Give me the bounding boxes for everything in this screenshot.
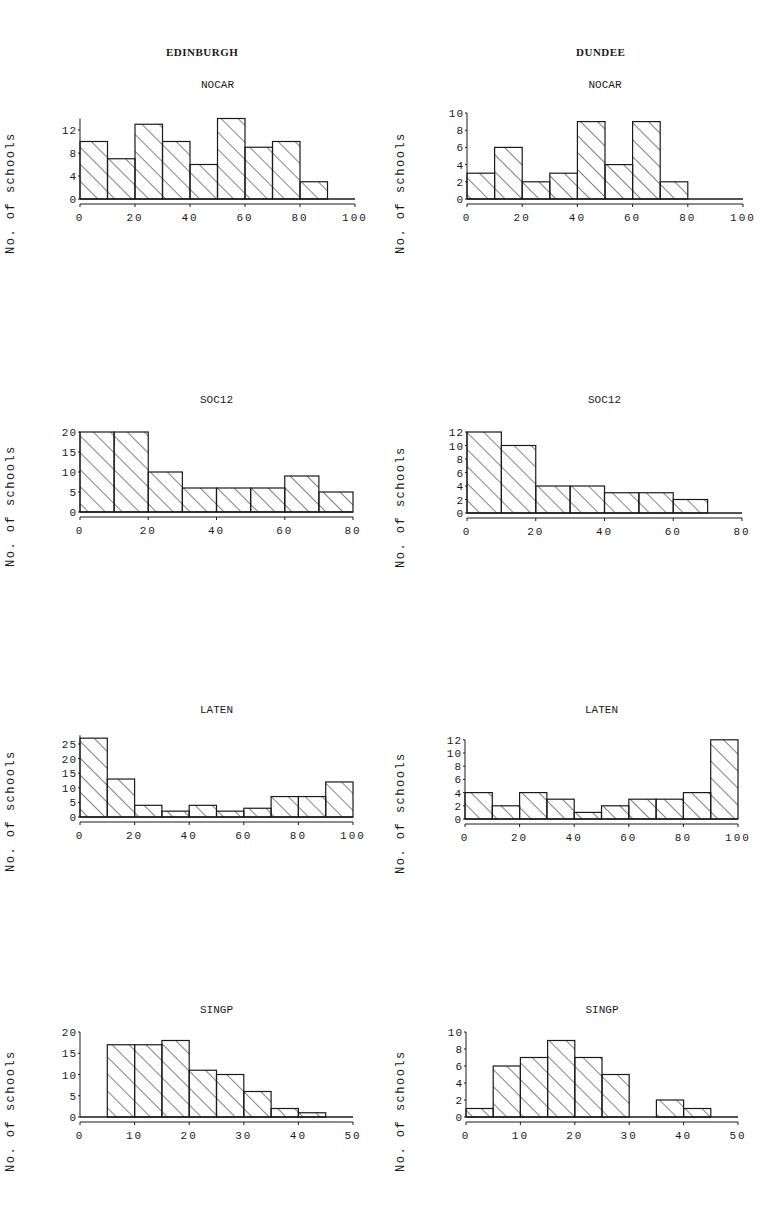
histogram-bar [148,472,182,512]
histogram-bar [189,1070,216,1117]
x-tick-label: 20 [566,1130,583,1142]
y-tick-label: 0 [455,1112,463,1124]
x-tick-label: 0 [463,526,472,538]
histogram-bar [501,446,535,514]
y-axis-label: No. of schools [394,446,408,568]
x-tick-label: 10 [512,1130,529,1142]
y-tick-label: 0 [456,508,464,520]
x-tick-label: 0 [76,830,85,842]
histogram-grid: NOCARNo. of schools04812020406080100NOCA… [0,0,778,1228]
x-tick-label: 40 [566,832,583,844]
histogram-bar [570,486,604,513]
y-axis-label: No. of schools [4,1050,18,1172]
histogram-bar [114,432,148,512]
y-tick-label: 15 [62,1048,77,1060]
y-tick-label: 6 [456,468,464,480]
x-tick-label: 100 [725,832,751,844]
histogram-bar [605,493,639,513]
x-tick-label: 20 [140,525,157,537]
x-tick-label: 40 [596,526,613,538]
y-tick-label: 12 [62,125,77,137]
y-tick-label: 25 [62,739,77,751]
histogram-bar [285,476,319,512]
y-axis-label: No. of schools [4,445,18,567]
histogram-bar [108,159,136,199]
histogram-bar [189,805,216,817]
histogram-bar [683,793,710,819]
x-tick-label: 40 [181,830,198,842]
histogram-bar [493,1066,520,1117]
x-tick-label: 0 [461,832,470,844]
x-tick-label: 10 [126,1130,143,1142]
histogram-bar [135,124,163,199]
histogram-bar [300,182,328,199]
x-tick-label: 30 [235,1130,252,1142]
histogram-dundee-laten: LATENNo. of schools024681012020406080100 [394,704,751,874]
histogram-bar [80,432,114,512]
histogram-dundee-singp: SINGPNo. of schools024681001020304050 [394,1004,747,1172]
x-tick-label: 0 [462,1130,471,1142]
x-tick-label: 40 [569,212,586,224]
y-tick-label: 8 [455,1044,463,1056]
histogram-bar [182,488,216,512]
histogram-edinburgh-singp: SINGPNo. of schools0510152001020304050 [4,1004,362,1172]
y-axis-label: No. of schools [394,1050,408,1172]
histogram-bar [684,1109,711,1118]
y-tick-label: 8 [454,761,462,773]
y-axis-label: No. of schools [4,132,18,254]
histogram-bar [660,182,688,199]
y-tick-label: 4 [456,481,464,493]
histogram-bar [107,779,134,817]
y-tick-label: 4 [456,160,464,172]
y-tick-label: 0 [454,814,462,826]
y-tick-label: 6 [456,142,464,154]
histogram-bar [271,797,298,817]
y-tick-label: 15 [62,768,77,780]
histogram-bar [80,738,107,817]
chart-title: SINGP [200,1004,233,1016]
x-tick-label: 40 [675,1130,692,1142]
x-tick-label: 0 [76,1130,85,1142]
x-tick-label: 0 [76,525,85,537]
histogram-bar [711,740,738,819]
y-axis-label: No. of schools [4,750,18,872]
histogram-bar [547,799,574,819]
histogram-bar [673,500,707,514]
histogram-bar [163,142,191,200]
y-tick-label: 12 [447,735,462,747]
histogram-bar [298,797,325,817]
histogram-bar [465,793,492,819]
x-tick-label: 60 [236,212,253,224]
x-tick-label: 20 [181,1130,198,1142]
y-tick-label: 8 [456,125,464,137]
y-tick-label: 0 [69,812,77,824]
x-tick-label: 40 [208,525,225,537]
y-tick-label: 12 [449,427,464,439]
y-axis-label: No. of schools [394,132,408,254]
histogram-bar [656,1100,683,1117]
y-tick-label: 10 [447,748,462,760]
y-tick-label: 4 [455,1078,463,1090]
x-tick-label: 20 [126,212,143,224]
x-tick-label: 80 [679,212,696,224]
x-tick-label: 30 [621,1130,638,1142]
x-tick-label: 40 [181,212,198,224]
chart-title: NOCAR [588,79,621,91]
histogram-bar [217,1075,244,1118]
histogram-bar [575,1058,602,1118]
y-tick-label: 8 [69,148,77,160]
histogram-bar [605,165,633,199]
y-tick-label: 0 [456,194,464,206]
histogram-bar [656,799,683,819]
histogram-edinburgh-laten: LATENNo. of schools051015202502040608010… [4,704,366,872]
histogram-bar [107,1045,134,1117]
x-tick-label: 80 [291,212,308,224]
histogram-bar [245,147,273,199]
chart-title: SINGP [585,1004,618,1016]
y-tick-label: 10 [448,1027,463,1039]
y-tick-label: 4 [69,171,77,183]
x-tick-label: 80 [675,832,692,844]
x-tick-label: 20 [511,832,528,844]
y-tick-label: 20 [62,1027,77,1039]
y-axis-label: No. of schools [394,752,408,874]
